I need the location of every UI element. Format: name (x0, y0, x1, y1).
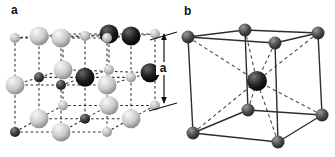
large-ion-sphere (52, 123, 71, 142)
small-ion-sphere (80, 31, 90, 41)
large-ion-sphere (122, 109, 141, 128)
small-ion-sphere (104, 65, 114, 75)
large-ion-sphere (30, 27, 49, 46)
large-ion-sphere (30, 109, 49, 128)
corner-atom-sphere (242, 104, 255, 117)
small-ion-sphere (10, 33, 20, 43)
corner-atom-sphere (272, 136, 285, 149)
large-ion-sphere (54, 60, 73, 79)
arrowhead-down-icon (161, 97, 167, 104)
corner-atom-sphere (316, 109, 329, 122)
corner-atom-sphere (182, 31, 195, 44)
small-ion-sphere (10, 127, 20, 137)
panel-a-label: a (11, 4, 18, 16)
small-ion-sphere (34, 72, 44, 82)
large-ion-sphere (122, 27, 141, 46)
small-ion-sphere (80, 114, 90, 124)
small-ion-sphere (102, 33, 112, 43)
small-ion-sphere (126, 72, 136, 82)
corner-atom-sphere (269, 37, 282, 50)
corner-atom-sphere (312, 27, 325, 40)
center-atom-sphere (247, 71, 267, 91)
small-ion-sphere (58, 100, 68, 110)
small-ion-sphere (56, 80, 66, 90)
corner-atom-sphere (239, 24, 252, 37)
crystal-lattice-drawing: a (0, 0, 335, 157)
lattice-constant-label: a (160, 61, 167, 75)
small-ion-sphere (102, 127, 112, 137)
large-ion-sphere (98, 76, 117, 95)
large-ion-sphere (52, 29, 71, 48)
corner-atom-sphere (187, 127, 200, 140)
large-ion-sphere (100, 96, 119, 115)
panel-b-label: b (184, 5, 191, 17)
large-ion-sphere (76, 68, 95, 87)
crystal-structure-figure: a a b (0, 0, 335, 157)
large-ion-sphere (6, 76, 25, 95)
